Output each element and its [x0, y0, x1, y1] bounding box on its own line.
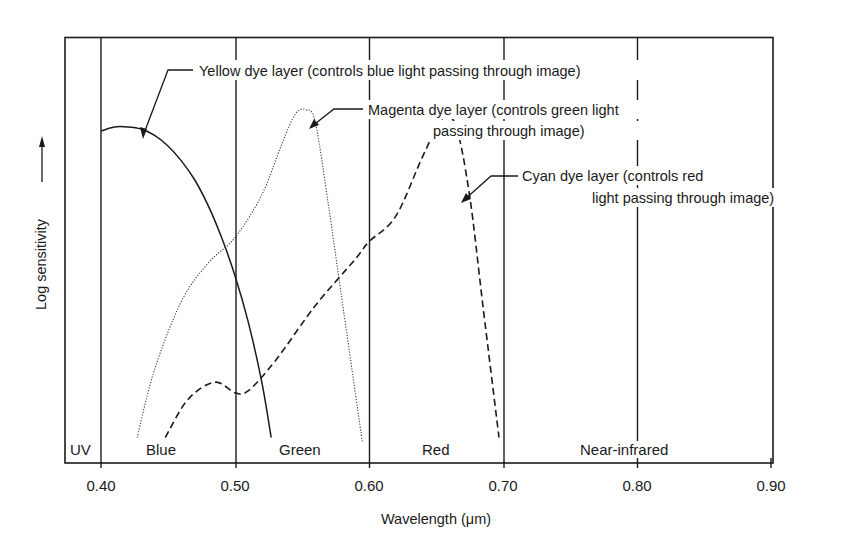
yellow-annotation: Yellow dye layer (controls blue light pa… — [199, 63, 581, 79]
x-tick-label: 0.50 — [220, 477, 249, 494]
x-tick-label: 0.80 — [622, 477, 651, 494]
band-label-red: Red — [422, 441, 450, 458]
magenta-annotation-line2: passing through image) — [433, 123, 585, 139]
chart-figure: Yellow dye layer (controls blue light pa… — [0, 0, 842, 556]
magenta-leader — [309, 109, 363, 129]
cyan-leader — [461, 176, 518, 203]
up-arrow-icon — [39, 136, 45, 147]
x-tick-label: 0.70 — [488, 477, 517, 494]
cyan-annotation-line1: Cyan dye layer (controls red — [522, 168, 703, 184]
cyan-annotation-line2: light passing through image) — [592, 190, 774, 206]
cyan-dye-curve — [165, 115, 499, 437]
band-label-uv: UV — [70, 441, 91, 458]
band-label-blue: Blue — [146, 441, 176, 458]
x-tick-label: 0.60 — [354, 477, 383, 494]
magenta-dye-curve — [137, 109, 362, 442]
arrowhead-icon — [140, 127, 147, 139]
magenta-annotation-line1: Magenta dye layer (controls green light — [368, 102, 619, 118]
yellow-dye-curve — [101, 126, 271, 437]
x-axis-title: Wavelength (μm) — [381, 511, 491, 527]
arrowhead-icon — [309, 119, 319, 129]
x-tick-label: 0.40 — [86, 477, 115, 494]
yellow-leader — [140, 70, 193, 139]
y-axis-title: Log sensitivity — [33, 218, 49, 310]
x-tick-label: 0.90 — [756, 477, 785, 494]
y-axis-arrow — [39, 136, 45, 182]
band-label-near-infrared: Near-infrared — [580, 441, 668, 458]
band-label-green: Green — [279, 441, 321, 458]
